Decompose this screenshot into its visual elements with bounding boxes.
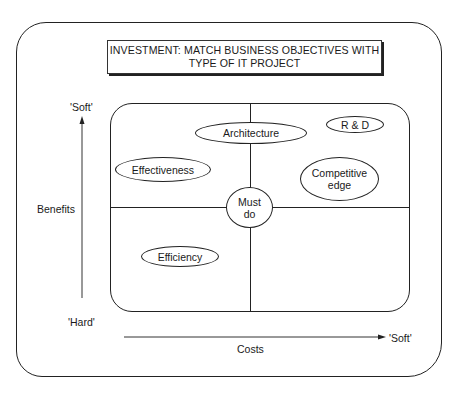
must-do-line-2: do (238, 208, 261, 220)
competitive-line-2: edge (312, 179, 367, 191)
arrow-right-icon (378, 335, 386, 340)
effectiveness-label: Effectiveness (132, 164, 194, 176)
arrow-up-icon (80, 116, 85, 124)
rnd-ellipse: R & D (326, 116, 384, 133)
architecture-ellipse: Architecture (195, 122, 307, 144)
y-axis-top-label: 'Soft' (70, 101, 93, 113)
x-axis-label: Costs (237, 343, 264, 355)
must-do-label: Must do (238, 196, 261, 220)
x-axis-end-label: 'Soft' (389, 332, 412, 344)
competitive-edge-ellipse: Competitive edge (300, 157, 379, 201)
effectiveness-ellipse: Effectiveness (115, 157, 211, 182)
efficiency-label: Efficiency (158, 251, 203, 263)
competitive-edge-label: Competitive edge (312, 167, 367, 191)
must-do-line-1: Must (238, 196, 261, 208)
rnd-label: R & D (341, 119, 369, 131)
y-axis-label: Benefits (37, 203, 75, 215)
must-do-ellipse: Must do (226, 187, 273, 228)
y-axis-bottom-label: 'Hard' (68, 316, 95, 328)
efficiency-ellipse: Efficiency (141, 246, 219, 267)
competitive-line-1: Competitive (312, 167, 367, 179)
architecture-label: Architecture (223, 127, 279, 139)
